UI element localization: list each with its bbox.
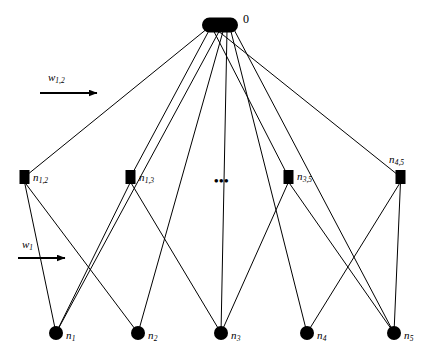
factor-node-label-n35: n3,5 <box>297 171 312 184</box>
edge-root-to-n1 <box>56 30 220 333</box>
edge-root-to-n45 <box>216 30 400 177</box>
variable-node-label-n5: n5 <box>404 330 413 343</box>
edge-root-to-n4 <box>231 30 307 333</box>
variable-node-label-n1: n1 <box>66 330 75 343</box>
annotation-arrow-group <box>18 93 97 258</box>
root-node-group <box>202 18 238 33</box>
edge-root-to-n12 <box>25 30 206 177</box>
factor-node-n13 <box>126 170 136 184</box>
annotation-label-w1: w1 <box>22 239 33 252</box>
edge-root-to-n13 <box>131 30 210 177</box>
variable-node-n4 <box>300 326 314 340</box>
annotation-label-w12: w1,2 <box>48 72 65 85</box>
variable-node-group <box>49 326 401 340</box>
variable-node-label-n2: n2 <box>148 330 157 343</box>
factor-node-n12 <box>20 170 30 184</box>
variable-node-n2 <box>131 326 145 340</box>
factor-edge-group <box>25 182 401 333</box>
edge-n35-to-n3 <box>221 182 289 333</box>
variable-node-label-n3: n3 <box>231 330 240 343</box>
diagram-canvas: 0 ••• n1,2n1,3n3,5n4,5n1n2n3n4n5w1,2w1 <box>0 0 444 364</box>
factor-node-n35 <box>284 170 294 184</box>
ellipsis-indicator: ••• <box>214 174 229 187</box>
variable-node-n3 <box>214 326 228 340</box>
root-edge-group <box>25 30 401 333</box>
edge-n45-to-n5 <box>394 182 401 333</box>
edge-n35-to-n5 <box>289 182 395 333</box>
root-node <box>202 18 238 33</box>
edge-n13-to-n1 <box>56 182 131 333</box>
factor-node-n45 <box>396 170 406 184</box>
root-node-label: 0 <box>243 13 249 25</box>
edge-root-to-n5 <box>234 30 394 333</box>
factor-node-label-n13: n1,3 <box>139 172 154 185</box>
variable-node-n1 <box>49 326 63 340</box>
factor-node-label-n12: n1,2 <box>33 172 48 185</box>
factor-node-group <box>20 170 406 184</box>
variable-node-n5 <box>387 326 401 340</box>
factor-node-label-n45: n4,5 <box>389 154 404 167</box>
variable-node-label-n4: n4 <box>317 330 326 343</box>
edge-n45-to-n4 <box>307 182 401 333</box>
